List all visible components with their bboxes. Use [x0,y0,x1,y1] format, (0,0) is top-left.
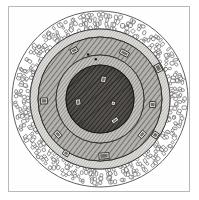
survey-dot-1 [87,53,89,55]
cobblestone [29,67,32,69]
cobblestone [172,116,175,119]
cobblestone [106,172,109,176]
gate-marker-w [40,98,47,104]
cobblestone [99,21,101,26]
cobblestone [21,119,26,124]
cobblestone [23,83,27,87]
court-marker-b [75,99,81,106]
marker-core [151,103,155,107]
cobblestone [93,181,97,185]
survey-dot-2 [95,58,97,60]
cobblestone [179,93,182,96]
cobblestone [105,22,108,27]
cobblestone [114,15,117,20]
cobblestone [79,178,81,181]
cobblestone [28,107,31,110]
cobblestone [95,172,98,177]
cobblestone [31,71,35,74]
cobblestone [138,24,141,28]
cobblestone [168,67,171,70]
cobblestone [109,15,112,18]
court-marker-d [111,101,116,106]
cobblestone [19,107,22,111]
cobblestone [97,13,101,17]
cobblestone [141,25,145,29]
cobblestone [88,19,92,23]
cobblestone [26,90,30,93]
cobblestone [23,106,27,109]
cobblestone [71,177,74,180]
engraving-plate [0,0,199,200]
cobblestone [25,115,29,118]
cobblestone [179,120,181,124]
cobblestone [82,18,86,22]
cobblestone [183,97,187,101]
cobblestone [107,176,111,180]
cobblestone [79,24,83,27]
cobblestone [181,81,184,85]
cobblestone [133,172,137,176]
cobblestone [84,170,89,175]
cobblestone [128,23,132,27]
cobblestone [173,58,178,61]
cobblestone [173,122,177,125]
cobblestone [82,179,85,182]
cobblestone [182,106,187,110]
cobblestone [19,89,22,93]
cobblestone [174,90,178,93]
cobblestone [17,73,21,76]
cobblestone [80,171,83,175]
cobblestone [126,30,129,34]
cobblestone [170,61,175,66]
cobblestone [16,115,19,119]
cobblestone [73,174,76,177]
circular-plan-figure [0,0,199,200]
cobblestone [173,73,177,77]
court-marker-a [100,76,106,83]
cobblestone [121,23,125,27]
gate-marker-s [99,153,109,160]
cobblestone [19,84,24,87]
cobblestone [181,88,184,92]
cobblestone [170,79,175,83]
cobblestone [14,103,18,106]
marker-core [100,154,108,158]
cobblestone [101,12,105,16]
cobblestone [22,100,26,104]
cobblestone [14,94,18,98]
cobblestone [129,175,133,179]
cobblestone [94,17,97,22]
cobblestone [173,106,177,110]
cobblestone [99,177,103,181]
plan-svg [0,0,199,200]
cobblestone [164,59,168,62]
cobblestone [15,90,18,94]
cobblestone [94,26,97,29]
cobblestone [178,100,182,104]
marker-core [42,99,47,103]
cobblestone [99,181,103,185]
cobblestone [99,17,103,21]
cobblestone [110,181,113,184]
marker-core [77,100,80,104]
cobblestone [120,178,124,181]
gate-marker-e [149,101,156,108]
